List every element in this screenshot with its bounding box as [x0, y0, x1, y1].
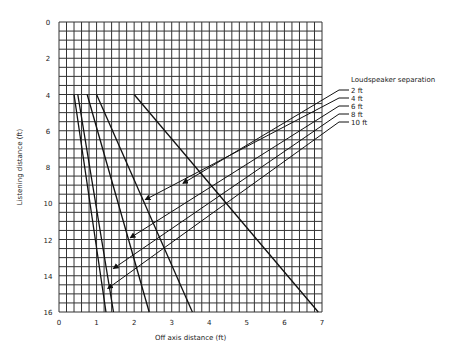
- x-tick-label: 1: [94, 319, 98, 327]
- x-axis-label: Off axis distance (ft): [155, 334, 227, 342]
- y-axis-label: Listening distance (ft): [16, 129, 24, 206]
- legend-leader-arrow: [108, 122, 339, 288]
- x-tick-label: 0: [57, 319, 61, 327]
- y-tick-label: 14: [44, 273, 53, 281]
- x-tick-label: 7: [320, 319, 324, 327]
- chart: 012345670246810121416Off axis distance (…: [0, 0, 458, 359]
- legend-entry: 4 ft: [351, 95, 363, 103]
- y-tick-label: 4: [46, 92, 51, 100]
- x-tick-label: 4: [207, 319, 212, 327]
- chart-grid: [59, 22, 322, 312]
- legend-entry: 6 ft: [351, 103, 363, 111]
- y-tick-label: 12: [44, 237, 53, 245]
- legend-leader-arrow: [113, 114, 339, 269]
- legend-leader-arrow: [130, 106, 339, 238]
- y-tick-label: 10: [44, 200, 53, 208]
- y-tick-label: 8: [46, 164, 50, 172]
- x-tick-label: 6: [282, 319, 287, 327]
- x-tick-label: 2: [132, 319, 136, 327]
- x-tick-label: 5: [245, 319, 249, 327]
- y-tick-label: 6: [46, 128, 51, 136]
- legend-leader-lines: [108, 90, 349, 288]
- y-tick-label: 0: [46, 19, 50, 27]
- x-tick-label: 3: [169, 319, 173, 327]
- legend-title: Loudspeaker separation: [351, 76, 435, 84]
- legend-entry: 8 ft: [351, 111, 363, 119]
- y-tick-label: 2: [46, 55, 50, 63]
- y-tick-label: 16: [44, 309, 53, 317]
- figure-caption-clipped: [30, 354, 210, 359]
- legend-entry: 10 ft: [351, 119, 367, 127]
- legend-entry: 2 ft: [351, 87, 363, 95]
